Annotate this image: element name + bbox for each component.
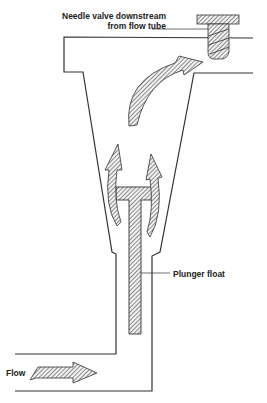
needle-valve-label-line1: Needle valve downstream	[62, 11, 166, 21]
needle-valve-cap	[197, 15, 239, 24]
needle-valve	[197, 15, 239, 59]
flow-label: Flow	[6, 368, 25, 378]
needle-valve-label-line2: from flow tube	[62, 21, 166, 31]
plunger-float-label: Plunger float	[173, 269, 225, 279]
plunger-float	[116, 187, 155, 334]
left-float-flow-arrow	[105, 144, 122, 226]
inlet-flow-arrow	[30, 362, 97, 383]
needle-valve-label: Needle valve downstream from flow tube	[62, 11, 166, 31]
outlet-flow-arrow	[129, 56, 203, 126]
flowmeter-diagram: Needle valve downstream from flow tube P…	[0, 0, 267, 403]
